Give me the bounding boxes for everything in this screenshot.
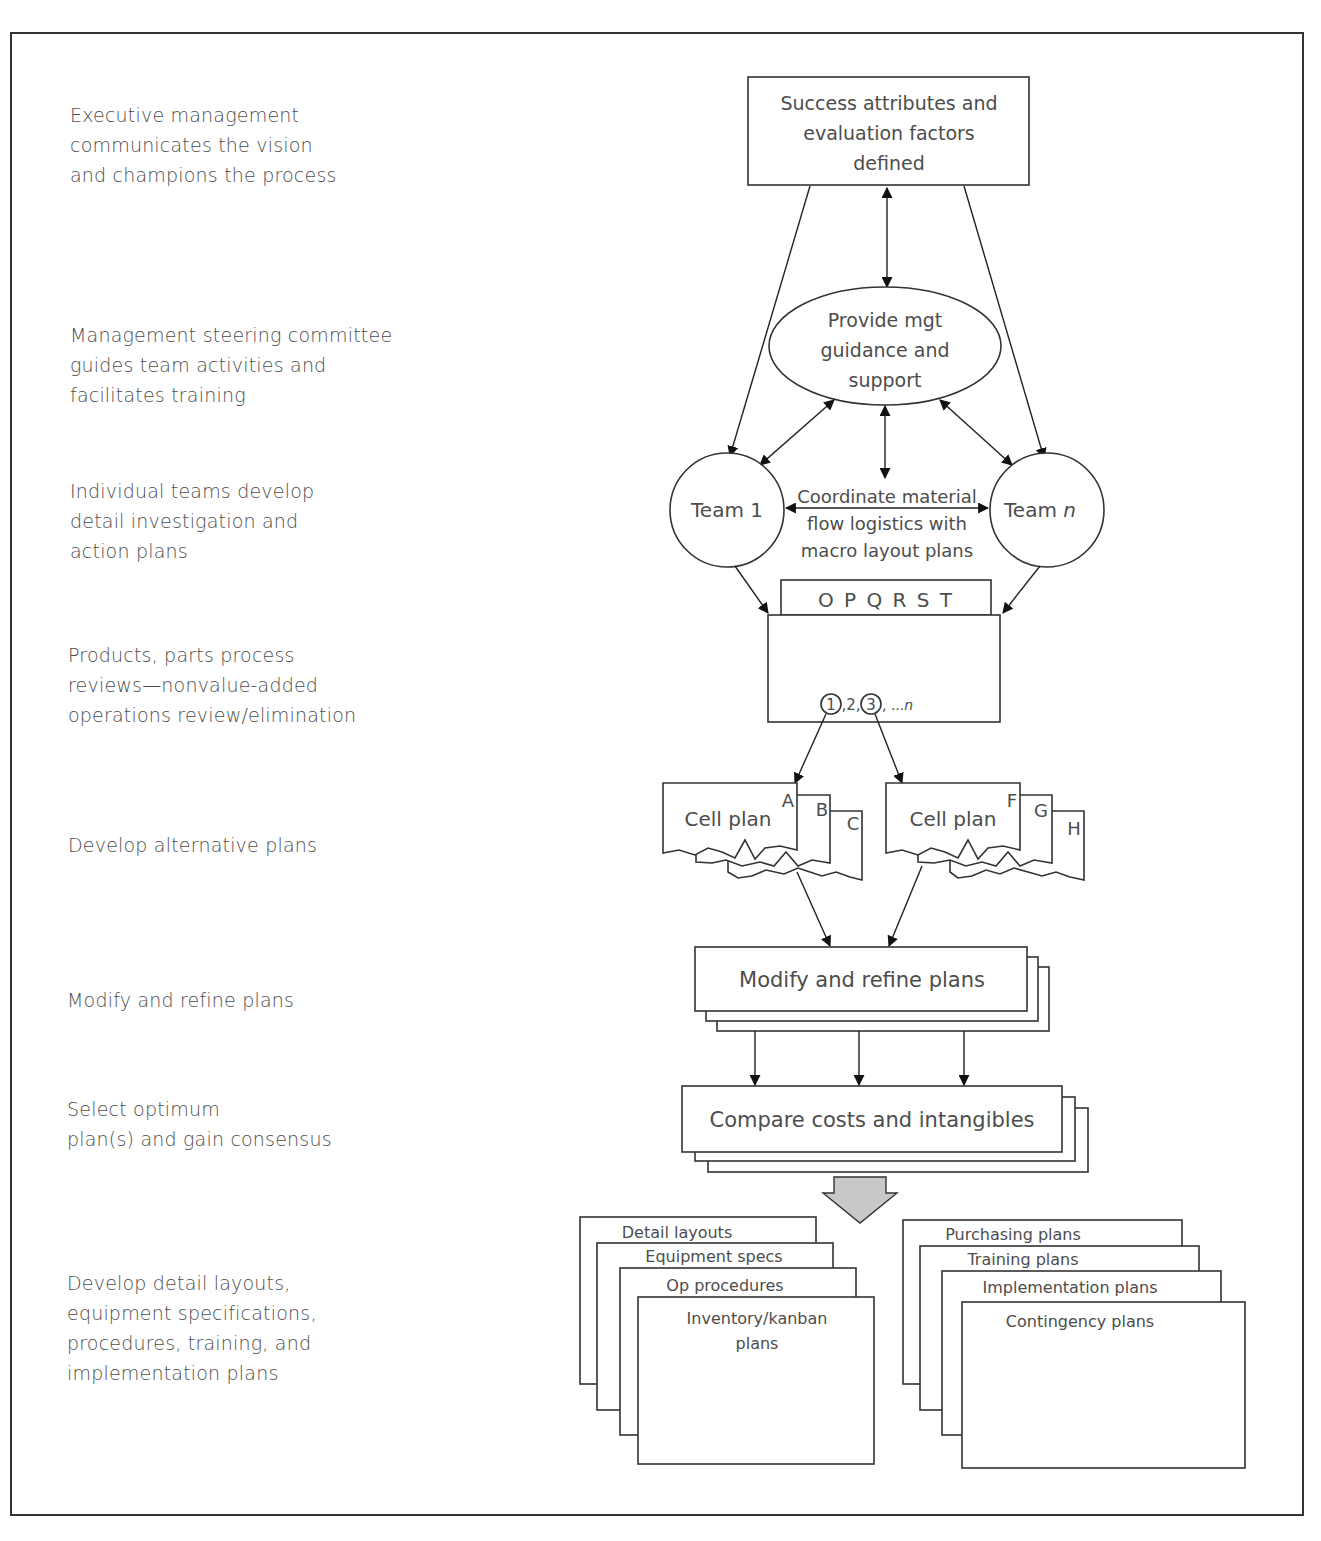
product-number-rest: , ...n bbox=[882, 697, 913, 713]
arrow-guidance-teamn bbox=[940, 400, 1012, 465]
docs-right-stack: Purchasing plans Training plans Implemen… bbox=[903, 1220, 1245, 1468]
doc-purchasing-plans: Purchasing plans bbox=[945, 1225, 1081, 1244]
guidance-line: Provide mgt bbox=[828, 309, 942, 331]
coordinate-line: flow logistics with bbox=[807, 513, 967, 534]
cell-plans-left: Cell plan A B C bbox=[663, 783, 862, 880]
arrow-cellplan-right-modify bbox=[889, 866, 922, 946]
big-down-arrow-icon bbox=[823, 1177, 897, 1223]
doc-op-procedures: Op procedures bbox=[666, 1276, 783, 1295]
guidance-line: support bbox=[849, 369, 922, 391]
guidance-line: guidance and bbox=[820, 339, 949, 361]
success-attributes-box: Success attributes and evaluation factor… bbox=[748, 77, 1029, 185]
arrow-cellplan-left-modify bbox=[797, 872, 830, 946]
arrow-products-cellplan-right bbox=[875, 714, 902, 783]
modify-box-label: Modify and refine plans bbox=[739, 968, 985, 992]
cell-plan-left-label: Cell plan bbox=[685, 807, 772, 831]
success-box-line: defined bbox=[853, 152, 925, 174]
success-box-line: evaluation factors bbox=[803, 122, 975, 144]
docs-left-stack: Detail layouts Equipment specs Op proced… bbox=[580, 1217, 874, 1464]
doc-detail-layouts: Detail layouts bbox=[622, 1223, 732, 1242]
product-number-2: ,2, bbox=[841, 696, 860, 714]
flow-diagram: Success attributes and evaluation factor… bbox=[0, 0, 1321, 1541]
product-n: n bbox=[904, 697, 913, 713]
team-n-circle: Team n bbox=[990, 453, 1104, 567]
product-number-1: 1 bbox=[826, 696, 836, 714]
compare-costs-box: Compare costs and intangibles bbox=[682, 1086, 1088, 1172]
arrow-teamn-products bbox=[1003, 566, 1040, 613]
product-tab-label: O P Q R S T bbox=[818, 588, 954, 612]
team-n-label: Team n bbox=[1003, 498, 1076, 522]
compare-box-label: Compare costs and intangibles bbox=[709, 1108, 1034, 1132]
doc-training-plans: Training plans bbox=[966, 1250, 1078, 1269]
product-number-3: 3 bbox=[866, 696, 876, 714]
modify-refine-box: Modify and refine plans bbox=[695, 947, 1049, 1031]
doc-inventory-kanban-line2: plans bbox=[736, 1334, 779, 1353]
doc-contingency-plans: Contingency plans bbox=[1006, 1312, 1154, 1331]
arrow-team1-products bbox=[735, 566, 768, 613]
cell-letter-g: G bbox=[1034, 800, 1048, 821]
product-ellipsis: , ... bbox=[882, 697, 904, 713]
success-box-line: Success attributes and bbox=[780, 92, 997, 114]
coordinate-line: Coordinate material bbox=[797, 486, 977, 507]
cell-letter-a: A bbox=[782, 790, 795, 811]
doc-implementation-plans: Implementation plans bbox=[982, 1278, 1157, 1297]
cell-plans-right: Cell plan F G H bbox=[886, 783, 1084, 880]
guidance-ellipse: Provide mgt guidance and support bbox=[769, 287, 1001, 405]
team-1-label: Team 1 bbox=[690, 498, 763, 522]
cell-letter-c: C bbox=[847, 813, 860, 834]
arrow-products-cellplan-left bbox=[795, 714, 826, 783]
team-1-circle: Team 1 bbox=[670, 453, 784, 567]
team-n-text: Team bbox=[1003, 498, 1057, 522]
product-review-box: O P Q R S T 1 ,2, 3 , ...n bbox=[768, 580, 1000, 722]
doc-equipment-specs: Equipment specs bbox=[645, 1247, 782, 1266]
cell-letter-b: B bbox=[816, 799, 828, 820]
coordinate-line: macro layout plans bbox=[801, 540, 973, 561]
arrow-guidance-team1 bbox=[760, 400, 834, 465]
cell-letter-f: F bbox=[1007, 790, 1017, 811]
cell-plan-right-label: Cell plan bbox=[910, 807, 997, 831]
doc-inventory-kanban: Inventory/kanban bbox=[687, 1309, 828, 1328]
cell-letter-h: H bbox=[1067, 818, 1081, 839]
team-n-suffix: n bbox=[1063, 498, 1076, 522]
